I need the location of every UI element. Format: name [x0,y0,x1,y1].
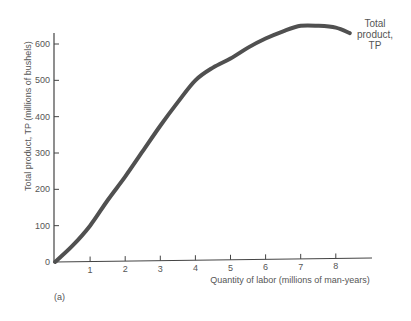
x-axis-ticks: 12345678 [88,253,339,274]
x-tick-label: 2 [123,264,128,274]
x-tick-label: 3 [158,264,163,274]
y-tick-label: 400 [35,112,50,122]
x-tick-label: 4 [193,263,198,273]
y-axis-ticks: 0100200300400500600 [35,39,59,267]
x-axis-label: Quantity of labor (millions of man-years… [210,275,370,285]
x-tick-label: 5 [228,263,233,273]
y-tick-label: 300 [35,148,50,158]
x-tick-label: 7 [298,262,303,272]
series-label-line: Total [364,18,385,29]
x-tick-label: 6 [263,262,268,272]
y-tick-label: 200 [35,184,50,194]
y-tick-label: 0 [45,257,50,267]
series-label-line: TP [369,40,382,51]
x-axis-line [54,258,372,262]
y-tick-label: 100 [35,221,50,231]
y-tick-label: 500 [35,75,50,85]
series-label: Totalproduct,TP [357,18,393,51]
total-product-chart: 0100200300400500600 12345678 Totalproduc… [0,0,411,321]
total-product-curve [55,25,350,262]
y-axis-label: Total product, TP (millions of bushels) [23,41,33,191]
panel-label: (a) [54,292,65,302]
y-tick-label: 600 [35,39,50,49]
series-label-line: product, [357,29,393,40]
x-tick-label: 8 [333,261,338,271]
x-tick-label: 1 [88,265,93,275]
